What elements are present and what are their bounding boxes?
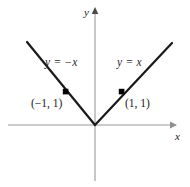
x-axis-arrowhead bbox=[170, 122, 177, 129]
point-label-left: (−1, 1) bbox=[31, 98, 62, 110]
equation-label-left: y = −x bbox=[45, 57, 78, 69]
curve-left-ray bbox=[27, 42, 95, 125]
equation-label-right: y = x bbox=[117, 57, 142, 69]
graph-canvas bbox=[0, 0, 190, 187]
absolute-value-graph-figure: y x y = −x y = x (−1, 1) (1, 1) bbox=[0, 0, 190, 187]
point-marker-left bbox=[63, 89, 69, 95]
y-axis-arrowhead bbox=[92, 7, 99, 14]
point-label-right: (1, 1) bbox=[125, 98, 150, 110]
point-marker-right bbox=[119, 89, 125, 95]
x-axis-label: x bbox=[175, 131, 180, 142]
y-axis-label: y bbox=[84, 7, 89, 18]
